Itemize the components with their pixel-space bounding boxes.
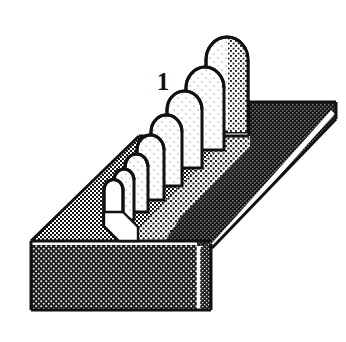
technical-figure: 1 — [0, 0, 346, 342]
reference-numeral-1-text: 1 — [157, 68, 170, 95]
right-end-face — [200, 241, 211, 310]
reference-numeral-1: 1 — [157, 68, 170, 95]
figure-container: 1 — [0, 0, 346, 342]
front-face — [31, 245, 197, 310]
